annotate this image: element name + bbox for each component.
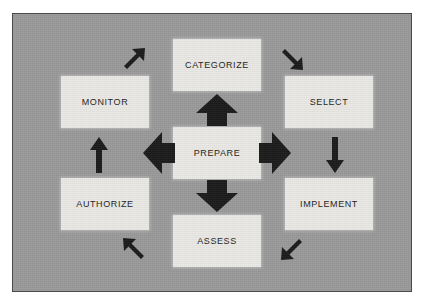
arrow-down-right-icon: [279, 46, 305, 72]
node-authorize[interactable]: AUTHORIZE: [61, 178, 149, 230]
node-label-implement: IMPLEMENT: [300, 199, 358, 209]
node-categorize[interactable]: CATEGORIZE: [173, 39, 261, 91]
thick-arrow-down-icon: [195, 179, 239, 213]
node-monitor[interactable]: MONITOR: [61, 76, 149, 128]
arrow-down-icon: [325, 136, 345, 174]
node-label-assess: ASSESS: [197, 236, 237, 246]
arrow-up-icon: [89, 136, 109, 174]
arrow-up-left-icon: [121, 236, 147, 262]
diagram-root: CATEGORIZE MONITOR SELECT PREPARE AUTHOR…: [0, 0, 425, 306]
node-implement[interactable]: IMPLEMENT: [285, 178, 373, 230]
node-label-prepare: PREPARE: [194, 148, 241, 158]
node-label-categorize: CATEGORIZE: [185, 60, 249, 70]
node-label-select: SELECT: [310, 97, 349, 107]
node-select[interactable]: SELECT: [285, 76, 373, 128]
node-assess[interactable]: ASSESS: [173, 215, 261, 267]
arrow-up-right-icon: [121, 46, 147, 72]
thick-arrow-up-icon: [195, 93, 239, 127]
node-label-authorize: AUTHORIZE: [76, 199, 133, 209]
node-label-monitor: MONITOR: [82, 97, 129, 107]
node-prepare[interactable]: PREPARE: [173, 127, 261, 179]
thick-arrow-right-icon: [258, 131, 292, 175]
thick-arrow-left-icon: [142, 131, 176, 175]
arrow-down-left-icon: [279, 236, 305, 262]
diagram-canvas: CATEGORIZE MONITOR SELECT PREPARE AUTHOR…: [12, 13, 412, 292]
